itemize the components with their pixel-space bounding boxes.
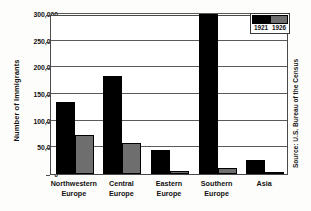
legend-label-1926: 1926 <box>270 24 288 32</box>
plot-area <box>50 15 288 175</box>
bar[interactable] <box>218 168 237 174</box>
legend-swatches <box>252 15 288 24</box>
x-tick-label: Asia <box>227 179 301 189</box>
immigration-bar-chart: Number of Immigrants Source: U.S. Bureau… <box>0 0 311 211</box>
bar[interactable] <box>170 171 189 174</box>
bar-group <box>151 14 189 174</box>
bar-group <box>199 14 237 174</box>
bar[interactable] <box>199 14 218 174</box>
bar[interactable] <box>56 102 75 174</box>
bar[interactable] <box>246 160 265 174</box>
bar[interactable] <box>122 143 141 174</box>
bar-group <box>246 14 284 174</box>
bar-group <box>56 14 94 174</box>
bar[interactable] <box>265 172 284 174</box>
legend-swatch-1921 <box>252 15 271 24</box>
y-tick-mark-0 <box>46 175 50 176</box>
legend[interactable]: 1921 1926 <box>250 13 290 34</box>
bar[interactable] <box>103 76 122 174</box>
bar-group <box>103 14 141 174</box>
legend-labels: 1921 1926 <box>252 24 288 32</box>
bar[interactable] <box>151 150 170 174</box>
source-note: Source: U.S. Bureau of the Census <box>292 34 299 194</box>
legend-swatch-1926 <box>271 15 289 24</box>
legend-label-1921: 1921 <box>252 24 270 32</box>
bar[interactable] <box>75 135 94 174</box>
